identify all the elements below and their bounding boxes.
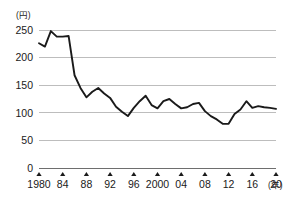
y-axis-tick-label: 50	[21, 134, 33, 146]
x-axis-tick-label: 08	[199, 178, 211, 190]
x-axis-tick-markers	[36, 172, 278, 176]
data-series-line	[39, 31, 276, 124]
y-axis-tick-label: 200	[15, 51, 33, 63]
y-axis-tick-label: 150	[15, 79, 33, 91]
gridlines	[39, 30, 276, 168]
x-axis-tick-labels: 19808488929620000408121620	[27, 178, 282, 190]
x-axis-tick-label: 16	[246, 178, 258, 190]
y-axis-unit-label: (円)	[16, 10, 31, 20]
y-axis-tick-labels: 250200150100500	[15, 24, 33, 174]
x-axis-unit-label: (年)	[268, 180, 283, 190]
x-axis-tick-marker	[250, 172, 255, 176]
x-axis-tick-label: 84	[57, 178, 69, 190]
x-axis-tick-label: 12	[223, 178, 235, 190]
x-axis-tick-label: 92	[104, 178, 116, 190]
x-axis-tick-label: 88	[81, 178, 93, 190]
x-axis-tick-marker	[131, 172, 136, 176]
x-axis-tick-marker	[226, 172, 231, 176]
x-axis-tick-marker	[179, 172, 184, 176]
x-axis-tick-marker	[273, 172, 278, 176]
x-axis-tick-marker	[60, 172, 65, 176]
x-axis-tick-marker	[36, 172, 41, 176]
chart-container: 250200150100500 198084889296200004081216…	[0, 0, 285, 199]
y-axis-tick-label: 100	[15, 107, 33, 119]
x-axis-tick-label: 2000	[146, 178, 170, 190]
x-axis-tick-label: 04	[175, 178, 187, 190]
x-axis-tick-marker	[202, 172, 207, 176]
x-axis-tick-marker	[108, 172, 113, 176]
line-chart: 250200150100500 198084889296200004081216…	[0, 0, 285, 199]
y-axis-tick-label: 250	[15, 24, 33, 36]
y-axis-tick-label: 0	[27, 162, 33, 174]
x-axis-tick-marker	[155, 172, 160, 176]
x-axis-tick-marker	[84, 172, 89, 176]
x-axis-tick-label: 1980	[27, 178, 51, 190]
x-axis-tick-label: 96	[128, 178, 140, 190]
